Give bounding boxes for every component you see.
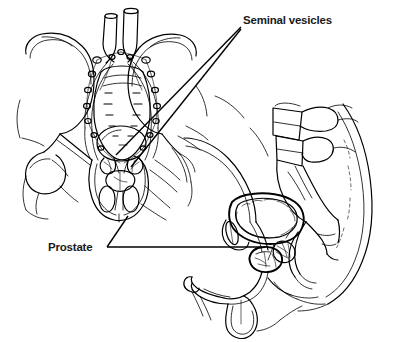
label-seminal-vesicles: Seminal vesicles: [243, 14, 332, 26]
background: [0, 0, 407, 342]
label-prostate: Prostate: [48, 241, 92, 253]
anatomy-diagram: Seminal vesicles Prostate: [0, 0, 407, 342]
illustration-canvas: Seminal vesicles Prostate: [0, 0, 407, 342]
